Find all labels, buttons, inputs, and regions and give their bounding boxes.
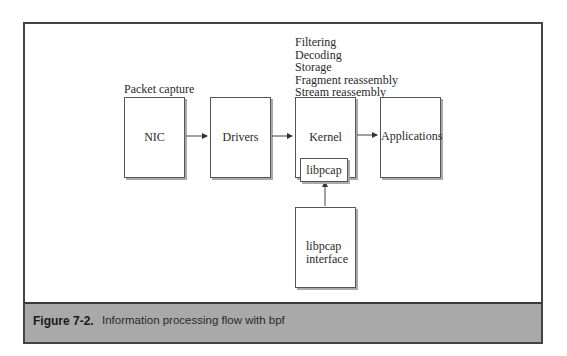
caption-region: Figure 7-2. Information processing flow … (23, 302, 543, 344)
libpcap-box: libpcap (300, 158, 348, 182)
caption-band: Figure 7-2. Information processing flow … (23, 302, 543, 344)
libpcap-label: libpcap (301, 163, 347, 178)
figure-caption: Information processing flow with bpf (102, 314, 285, 326)
figure-number: Figure 7-2. (33, 314, 94, 328)
